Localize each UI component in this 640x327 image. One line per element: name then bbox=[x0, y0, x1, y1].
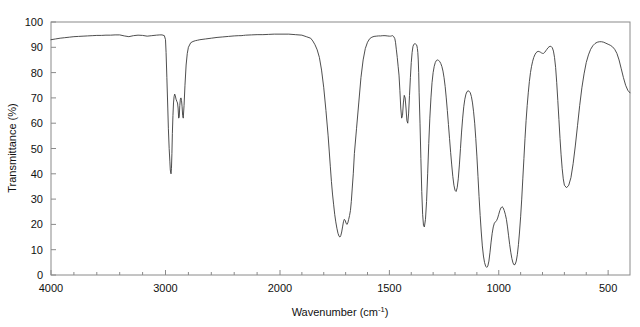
figure-background bbox=[0, 0, 640, 327]
x-tick-label: 2000 bbox=[268, 282, 292, 294]
y-tick-label: 50 bbox=[31, 143, 43, 155]
y-tick-label: 30 bbox=[31, 193, 43, 205]
x-tick-label: 500 bbox=[599, 282, 617, 294]
x-axis-title: Wavenumber (cm-1) bbox=[292, 305, 389, 318]
ftir-spectrum-figure: 40003000200015001000500 0102030405060708… bbox=[0, 0, 640, 327]
y-axis-title-text: Transmittance (%) bbox=[6, 103, 18, 192]
y-tick-label: 40 bbox=[31, 168, 43, 180]
x-axis-title-end: ) bbox=[385, 306, 389, 318]
y-axis-title: Transmittance (%) bbox=[6, 103, 18, 192]
x-tick-label: 1500 bbox=[377, 282, 401, 294]
x-tick-label: 3000 bbox=[153, 282, 177, 294]
x-axis-title-main: Wavenumber (cm bbox=[292, 306, 378, 318]
x-axis-title-superscript: -1 bbox=[378, 305, 385, 314]
y-tick-label: 60 bbox=[31, 117, 43, 129]
y-tick-label: 20 bbox=[31, 218, 43, 230]
x-tick-label: 1000 bbox=[487, 282, 511, 294]
x-axis-title-text: Wavenumber (cm-1) bbox=[292, 305, 389, 318]
chart-canvas: 40003000200015001000500 0102030405060708… bbox=[0, 0, 640, 327]
y-tick-label: 10 bbox=[31, 244, 43, 256]
y-tick-label: 90 bbox=[31, 41, 43, 53]
y-tick-label: 100 bbox=[25, 16, 43, 28]
y-tick-label: 80 bbox=[31, 67, 43, 79]
y-tick-label: 0 bbox=[37, 269, 43, 281]
y-tick-label: 70 bbox=[31, 92, 43, 104]
x-tick-label: 4000 bbox=[39, 282, 63, 294]
